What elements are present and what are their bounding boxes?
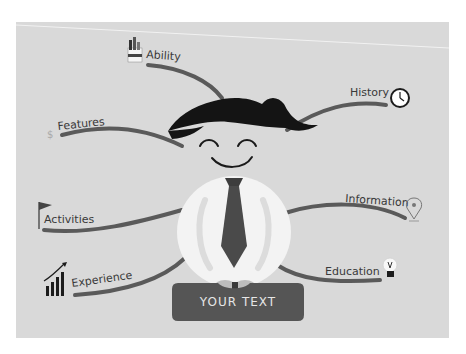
text-banner[interactable]: YOUR TEXT bbox=[172, 283, 304, 321]
smile bbox=[212, 157, 252, 167]
label-education: Education bbox=[325, 265, 380, 278]
label-activities: Activities bbox=[44, 213, 94, 226]
decorative-streak bbox=[16, 25, 449, 48]
dollar-icon: $ bbox=[47, 129, 53, 140]
businessman-figure bbox=[168, 98, 318, 294]
hair bbox=[168, 98, 318, 131]
paint-brushes-icon bbox=[128, 37, 142, 62]
growth-chart-icon bbox=[44, 262, 67, 296]
banner-text: YOUR TEXT bbox=[199, 295, 276, 309]
label-ability: Ability bbox=[146, 48, 182, 63]
eye-right bbox=[238, 140, 256, 146]
lightbulb-icon bbox=[383, 258, 397, 277]
mind-map-svg: YOUR TEXT Ability Features Activities Ex… bbox=[0, 0, 466, 354]
label-history: History bbox=[350, 86, 390, 99]
clock-icon bbox=[391, 89, 409, 107]
mind-map-canvas: YOUR TEXT Ability Features Activities Ex… bbox=[0, 0, 466, 354]
eye-left bbox=[200, 140, 218, 146]
branch-line-ability bbox=[148, 65, 222, 98]
branch-line-features bbox=[62, 129, 182, 146]
